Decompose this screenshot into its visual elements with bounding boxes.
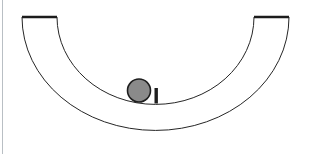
ball xyxy=(128,79,151,102)
post xyxy=(155,88,158,104)
bowl-and-ball-figure xyxy=(0,0,309,154)
figure-root: Ball resting at the bottom of a semicirc… xyxy=(0,0,309,154)
bowl-body xyxy=(22,17,289,130)
